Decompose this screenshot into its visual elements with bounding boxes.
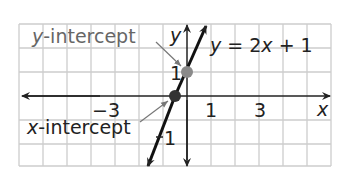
y-intercept-label: y-intercept <box>31 25 136 47</box>
x-intercept-pointer-arrow <box>140 101 168 122</box>
tick-label-y-1: 1 <box>170 62 182 84</box>
equation-label: y = 2x + 1 <box>209 34 313 56</box>
tick-label-x-1: 1 <box>205 99 217 121</box>
tick-label-y-neg1: 1 <box>164 127 176 149</box>
x-intercept-point <box>169 90 181 102</box>
y-intercept-point <box>181 66 193 78</box>
coordinate-graph: y-intercept x-intercept y = 2x + 1 y x −… <box>0 0 352 175</box>
tick-label-x-3: 3 <box>254 99 266 121</box>
y-axis-label: y <box>169 24 182 46</box>
x-axis-label: x <box>316 98 329 120</box>
tick-label-x-neg3: −3 <box>92 99 120 121</box>
